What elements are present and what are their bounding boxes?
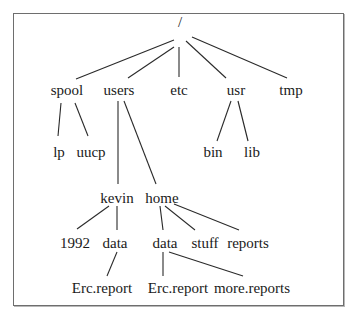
edge-k_data-k_erc [107,252,117,276]
node-h-stuff: stuff [191,235,218,251]
edge-home-h_data [160,206,163,230]
directory-tree-diagram: /spoolusersetcusrtmplpuucpbinlibkevinhom… [0,0,357,319]
node-uucp: uucp [76,144,105,160]
node-tmp: tmp [279,82,302,98]
node-k-1992: 1992 [60,235,90,251]
edge-root-spool [76,40,174,79]
edge-home-h_stuff [165,206,195,230]
node-kevin: kevin [100,190,134,206]
node-h-more: more.reports [214,280,290,296]
node-bin: bin [203,144,223,160]
node-users: users [104,82,135,98]
node-h-erc: Erc.report [148,280,209,296]
node-root: / [178,14,183,30]
edge-spool-uucp [75,103,88,136]
edge-home-h_reports [174,204,239,230]
edge-users-home [124,101,156,184]
node-lib: lib [244,144,260,160]
edge-spool-lp [58,103,61,136]
node-lp: lp [53,144,65,160]
node-h-reports: reports [227,235,269,251]
edge-root-tmp [192,37,287,78]
node-spool: spool [51,82,84,98]
node-etc: etc [170,82,188,98]
tree-nodes: /spoolusersetcusrtmplpuucpbinlibkevinhom… [51,14,303,296]
node-home: home [145,190,179,206]
edge-root-usr [186,41,226,78]
node-h-data: data [153,235,178,251]
edge-usr-lib [238,101,248,141]
edge-usr-bin [217,101,231,141]
node-usr: usr [227,82,245,98]
node-k-data: data [103,235,128,251]
edge-h_data-h_more [169,252,243,276]
edge-kevin-k_1992 [77,206,109,229]
edge-root-users [128,47,174,78]
node-k-erc: Erc.report [72,280,133,296]
